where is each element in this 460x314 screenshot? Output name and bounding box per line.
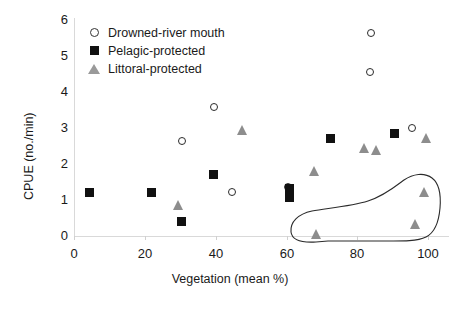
legend-item-littoral-protected[interactable]: Littoral-protected [85, 60, 225, 77]
scatter-chart-figure: 6 5 4 3 2 1 0 0 20 40 60 80 100 CPUE (no… [0, 0, 460, 314]
cluster-outline-annotation [0, 0, 460, 314]
plot-area: 6 5 4 3 2 1 0 0 20 40 60 80 100 CPUE (no… [0, 0, 460, 314]
open-triangle-icon [85, 64, 103, 74]
filled-square-icon [85, 46, 103, 55]
legend-label: Pelagic-protected [108, 44, 205, 58]
legend-label: Drowned-river mouth [108, 26, 225, 40]
legend: Drowned-river mouth Pelagic-protected Li… [85, 24, 225, 78]
legend-item-drowned-river-mouth[interactable]: Drowned-river mouth [85, 24, 225, 41]
legend-label: Littoral-protected [108, 62, 202, 76]
legend-item-pelagic-protected[interactable]: Pelagic-protected [85, 42, 225, 59]
open-circle-icon [85, 28, 103, 37]
